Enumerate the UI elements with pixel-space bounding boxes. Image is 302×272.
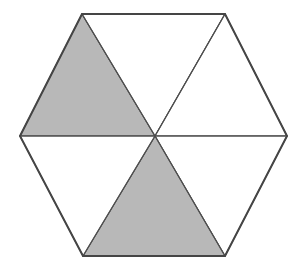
figure-canvas [0, 0, 302, 272]
sector-group [20, 14, 287, 256]
hexagon-diagram [0, 0, 302, 272]
